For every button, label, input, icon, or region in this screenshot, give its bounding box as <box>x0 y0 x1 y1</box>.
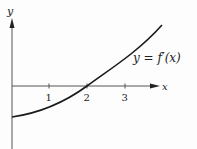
derivative-curve <box>12 25 162 117</box>
y-axis-arrow-icon <box>10 18 15 28</box>
x-axis-label: x <box>162 81 168 92</box>
tick-label-2: 2 <box>84 92 90 103</box>
derivative-graph: y x 1 2 3 y = f′(x) <box>0 0 197 149</box>
tick-label-3: 3 <box>122 92 128 103</box>
y-axis-label: y <box>6 5 14 18</box>
curve-label: y = f′(x) <box>132 51 181 65</box>
graph-canvas: y x 1 2 3 y = f′(x) <box>0 0 197 149</box>
tick-label-1: 1 <box>46 92 52 103</box>
x-axis-arrow-icon <box>150 84 160 89</box>
